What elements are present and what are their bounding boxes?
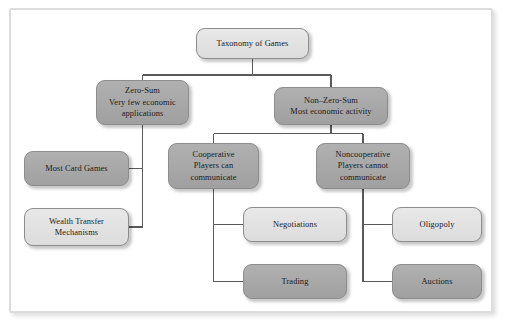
node-non-zero-sum[interactable]: Non–Zero-Sum Most economic activity xyxy=(274,87,388,125)
node-zero-sum-line-2: applications xyxy=(122,108,164,119)
node-wealth-transfer-mechanisms-line-0: Wealth Transfer xyxy=(49,216,104,227)
node-cooperative-line-2: communicate xyxy=(190,172,236,183)
node-cooperative-line-1: Players can xyxy=(194,160,233,171)
node-cooperative[interactable]: Cooperative Players can communicate xyxy=(168,143,259,189)
node-noncooperative-line-1: Players cannot xyxy=(338,160,388,171)
node-trading[interactable]: Trading xyxy=(243,264,347,299)
node-zero-sum-line-1: Very few economic xyxy=(109,97,176,108)
node-zero-sum[interactable]: Zero-Sum Very few economic applications xyxy=(96,80,189,125)
diagram-canvas: Taxonomy of Games Zero-Sum Very few econ… xyxy=(0,0,509,328)
node-noncooperative[interactable]: Noncooperative Players cannot communicat… xyxy=(316,143,410,189)
node-negotiations-line-0: Negotiations xyxy=(273,219,317,230)
node-cooperative-line-0: Cooperative xyxy=(192,149,234,160)
node-wealth-transfer-mechanisms[interactable]: Wealth Transfer Mechanisms xyxy=(24,208,129,246)
node-root-line-0: Taxonomy of Games xyxy=(217,38,289,49)
node-trading-line-0: Trading xyxy=(282,276,309,287)
node-negotiations[interactable]: Negotiations xyxy=(243,207,347,242)
node-wealth-transfer-mechanisms-line-1: Mechanisms xyxy=(55,227,98,238)
node-most-card-games[interactable]: Most Card Games xyxy=(24,151,129,186)
node-noncooperative-line-2: communicate xyxy=(340,172,386,183)
node-most-card-games-line-0: Most Card Games xyxy=(45,163,107,174)
node-auctions[interactable]: Auctions xyxy=(392,264,482,299)
node-zero-sum-line-0: Zero-Sum xyxy=(125,85,160,96)
node-root[interactable]: Taxonomy of Games xyxy=(196,28,309,59)
node-oligopoly-line-0: Oligopoly xyxy=(420,219,455,230)
node-oligopoly[interactable]: Oligopoly xyxy=(392,207,482,242)
node-non-zero-sum-line-1: Most economic activity xyxy=(290,106,371,117)
node-non-zero-sum-line-0: Non–Zero-Sum xyxy=(304,95,358,106)
node-auctions-line-0: Auctions xyxy=(421,276,452,287)
node-noncooperative-line-0: Noncooperative xyxy=(336,149,391,160)
